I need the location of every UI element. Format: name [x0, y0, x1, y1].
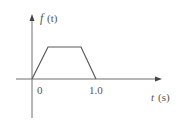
function-plot: f (t) 0 1.0 t (s) — [0, 0, 179, 125]
trapezoid-curve — [32, 47, 96, 79]
x-axis-arrow-icon — [155, 77, 162, 82]
diagram-canvas: f (t) 0 1.0 t (s) — [0, 0, 179, 125]
tick-label-origin: 0 — [37, 84, 43, 96]
y-axis-arrow-icon — [30, 14, 35, 21]
x-axis-label-unit: (s) — [158, 91, 170, 104]
x-axis-label-var: t — [151, 91, 155, 103]
y-axis-label-func: f — [40, 11, 45, 25]
y-axis-label-arg: (t) — [47, 12, 58, 25]
tick-label-end: 1.0 — [89, 84, 103, 96]
